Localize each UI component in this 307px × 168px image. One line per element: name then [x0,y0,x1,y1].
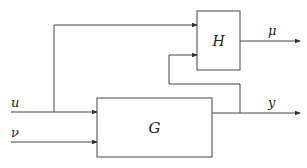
u-label: u [11,95,19,110]
h-block-label: H [211,33,225,49]
block-diagram: G H u ν y μ [0,0,307,168]
g-block-label: G [149,119,161,137]
mu-label: μ [268,23,276,38]
y-label: y [267,95,276,110]
nu-label: ν [11,125,19,140]
